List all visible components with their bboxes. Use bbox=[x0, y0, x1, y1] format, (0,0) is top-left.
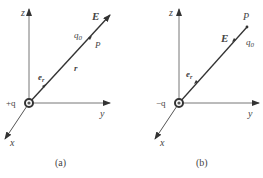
field-line bbox=[179, 27, 247, 103]
panel-a: z y x +q E q0 P r er (a) bbox=[5, 7, 110, 169]
unit-vector-label: er bbox=[38, 72, 45, 83]
test-charge-label: q0 bbox=[74, 30, 83, 42]
caption-a: (a) bbox=[55, 157, 66, 169]
field-line bbox=[29, 15, 110, 103]
panel-b: z y x −q P E q0 er (b) bbox=[155, 7, 259, 169]
point-p bbox=[246, 26, 249, 29]
z-label: z bbox=[168, 7, 173, 18]
test-charge-label: q0 bbox=[246, 37, 255, 49]
field-label: E bbox=[91, 10, 99, 22]
caption-b: (b) bbox=[196, 157, 208, 169]
unit-vector-label: er bbox=[186, 69, 193, 80]
x-axis bbox=[5, 103, 29, 139]
point-label: P bbox=[242, 11, 249, 22]
point-label: P bbox=[94, 40, 101, 50]
field-label: E bbox=[220, 32, 228, 44]
x-label: x bbox=[159, 137, 165, 148]
y-label: y bbox=[99, 108, 105, 119]
x-axis bbox=[155, 103, 179, 139]
y-label: y bbox=[247, 108, 253, 119]
coulomb-field-diagram: z y x +q E q0 P r er (a) z y x −q P E q0… bbox=[0, 0, 263, 178]
charge-label: +q bbox=[6, 98, 16, 108]
z-label: z bbox=[20, 7, 25, 18]
r-label: r bbox=[74, 63, 78, 73]
x-label: x bbox=[9, 137, 15, 148]
charge-label: −q bbox=[156, 98, 166, 108]
